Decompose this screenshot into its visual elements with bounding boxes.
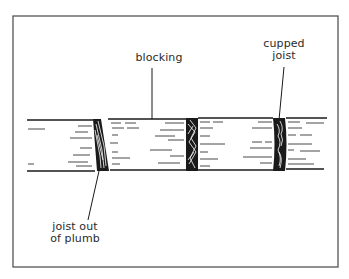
leader-cupped-joist: [279, 67, 284, 120]
diagram-figure: blocking cupped joist joist out of plumb: [0, 0, 349, 279]
joist-out-of-plumb: [93, 119, 109, 171]
label-blocking: blocking: [131, 52, 187, 64]
joist-straight: [186, 118, 198, 171]
label-out-of-plumb-line2: of plumb: [40, 233, 110, 245]
label-cupped-joist-line2: joist: [256, 50, 312, 62]
label-blocking-text: blocking: [136, 51, 183, 64]
label-joist-out-of-plumb: joist out of plumb: [40, 221, 110, 245]
label-cupped-joist: cupped joist: [256, 38, 312, 62]
leader-out-of-plumb: [88, 171, 99, 220]
joist-cupped: [273, 118, 287, 171]
